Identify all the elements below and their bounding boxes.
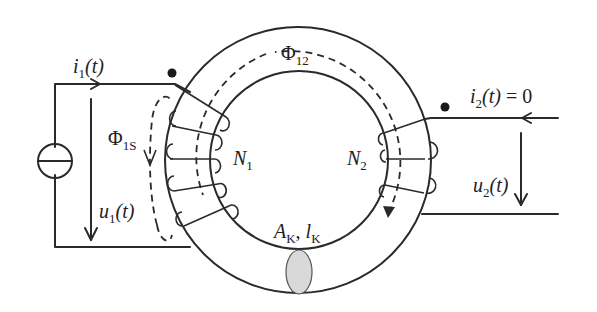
mutual-flux-path: [196, 51, 400, 218]
label-i1: i1(t): [73, 55, 104, 81]
transformer-diagram: i1(t) Φ1S u1(t) N1 Φ12 N2 i2(t) = 0 u2(t…: [0, 0, 597, 312]
leakage-flux-loop: [144, 97, 172, 241]
core-cross-section: [286, 250, 312, 294]
flux-arrow-icon: [383, 206, 395, 218]
polarity-dot-primary: [168, 69, 177, 78]
label-n1: N1: [232, 147, 253, 173]
label-phi12: Φ12: [281, 42, 309, 68]
polarity-dot-secondary: [441, 103, 450, 112]
label-phi1s: Φ1S: [108, 127, 136, 153]
label-n2: N2: [346, 147, 367, 173]
label-u2: u2(t): [473, 174, 509, 200]
current-source[interactable]: [38, 144, 72, 178]
label-core-area-length: AK, lK: [272, 220, 321, 246]
secondary-circuit: [422, 103, 558, 215]
label-u1: u1(t): [99, 200, 135, 226]
label-i2: i2(t) = 0: [470, 85, 532, 111]
